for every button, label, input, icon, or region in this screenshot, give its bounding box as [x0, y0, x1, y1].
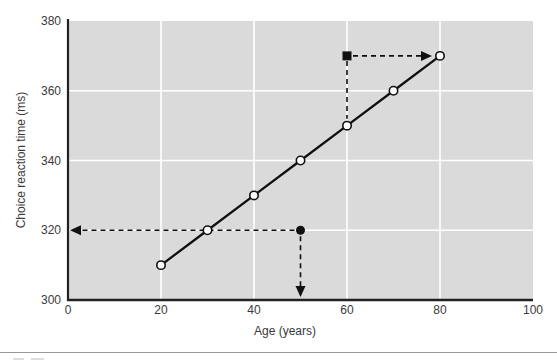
data-point-marker: [203, 226, 211, 234]
y-tick-label: 300: [41, 293, 61, 307]
cropped-caption-remnant: [31, 358, 44, 360]
square-annotation-marker: [343, 51, 352, 60]
x-tick-label: 100: [523, 303, 543, 317]
cropped-caption-remnant: [13, 358, 24, 360]
x-axis-title: Age (years): [185, 324, 385, 338]
data-point-marker: [250, 191, 258, 199]
reaction-time-chart: 300320340360380020406080100: [0, 0, 557, 348]
y-tick-label: 340: [41, 154, 61, 168]
y-tick-label: 380: [41, 14, 61, 28]
x-tick-label: 80: [433, 303, 447, 317]
x-tick-label: 20: [154, 303, 168, 317]
y-tick-label: 320: [41, 223, 61, 237]
caption-divider: [0, 352, 557, 353]
data-point-marker: [157, 261, 165, 269]
x-tick-label: 40: [247, 303, 261, 317]
y-axis-title: Choice reaction time (ms): [14, 77, 28, 243]
data-point-marker: [389, 87, 397, 95]
y-tick-label: 360: [41, 84, 61, 98]
data-point-marker: [296, 156, 304, 164]
data-point-marker: [343, 121, 351, 129]
x-tick-label: 0: [65, 303, 72, 317]
x-tick-label: 60: [340, 303, 354, 317]
figure: 300320340360380020406080100 Choice react…: [0, 0, 557, 361]
data-point-marker: [436, 52, 444, 60]
dot-annotation-marker: [296, 226, 305, 235]
